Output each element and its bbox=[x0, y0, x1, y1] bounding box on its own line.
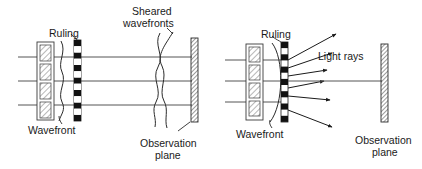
left-panel: Ruling Wavefront Sheared wavefronts Obse… bbox=[18, 5, 198, 161]
label-observation-plane-left-line1: Observation bbox=[140, 137, 197, 149]
leader-observation-plane-left bbox=[178, 122, 190, 131]
label-sheared-wavefronts-line1: Sheared bbox=[132, 5, 172, 17]
label-observation-plane-right-line2: plane bbox=[372, 146, 398, 158]
transmitted-beam-lines-left bbox=[80, 57, 192, 105]
optic-element-right bbox=[246, 44, 263, 120]
observation-plane-right bbox=[381, 44, 388, 122]
label-wavefront-left: Wavefront bbox=[28, 124, 76, 136]
label-ruling-left: Ruling bbox=[49, 27, 79, 39]
right-panel: Ruling Wavefront Light rays Observation … bbox=[225, 28, 412, 158]
label-wavefront-right: Wavefront bbox=[236, 128, 284, 140]
light-ray-5 bbox=[288, 96, 330, 100]
light-ray-4 bbox=[288, 81, 324, 88]
ruling-grating-left bbox=[74, 40, 81, 121]
label-ruling-right: Ruling bbox=[261, 28, 291, 40]
optics-diagram: Ruling Wavefront Sheared wavefronts Obse… bbox=[0, 0, 422, 169]
light-ray-3 bbox=[288, 70, 327, 76]
optic-element-left bbox=[37, 42, 54, 120]
label-light-rays: Light rays bbox=[318, 50, 364, 62]
observation-plane-left bbox=[191, 38, 198, 122]
sheared-wavefront-curves bbox=[154, 32, 173, 128]
light-ray-6 bbox=[288, 110, 332, 127]
ruling-grating-right bbox=[281, 42, 288, 122]
label-observation-plane-right-line1: Observation bbox=[355, 134, 412, 146]
label-observation-plane-left-line2: plane bbox=[155, 149, 181, 161]
label-sheared-wavefronts-line2: wavefronts bbox=[122, 17, 174, 29]
curved-wavefront-right bbox=[270, 43, 281, 122]
figure-canvas: Ruling Wavefront Sheared wavefronts Obse… bbox=[0, 0, 422, 169]
